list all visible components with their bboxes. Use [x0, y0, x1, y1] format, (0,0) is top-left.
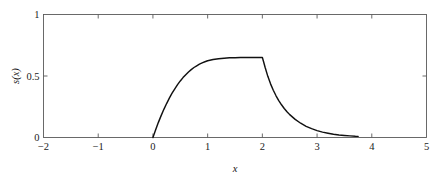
x-tick-label: −2 [38, 141, 49, 152]
x-tick-label: 4 [369, 141, 375, 152]
x-tick-label: 0 [150, 141, 155, 152]
x-axis-title: x [232, 163, 238, 174]
chart-figure: −2−1012345 00.51 x s(x) [0, 0, 438, 177]
x-tick-label: 1 [205, 141, 210, 152]
x-tick-label: 5 [424, 141, 429, 152]
y-tick-label: 0.5 [26, 71, 39, 82]
x-tick-label: −1 [93, 141, 104, 152]
x-tick-label: 3 [314, 141, 319, 152]
x-tick-label: 2 [260, 141, 265, 152]
y-tick-label: 0 [34, 132, 39, 143]
y-axis-title: s(x) [10, 68, 22, 84]
y-tick-label: 1 [34, 9, 39, 20]
